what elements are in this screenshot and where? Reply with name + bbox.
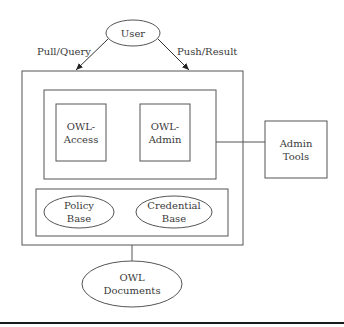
owl-documents-ellipse: [82, 261, 182, 307]
owl-access-label-line1: OWL-: [67, 121, 96, 132]
owl-access-module: OWL- Access: [56, 104, 106, 161]
policy-base-label-line2: Base: [67, 213, 91, 224]
owl-admin-module: OWL- Admin: [140, 104, 190, 161]
push-result-label: Push/Result: [177, 46, 237, 57]
user-label: User: [121, 28, 145, 39]
figure-bottom-rule: [0, 322, 344, 324]
admin-tools-node: Admin Tools: [265, 121, 327, 178]
admin-tools-label-line2: Tools: [283, 151, 309, 162]
credential-base-label-line1: Credential: [147, 200, 201, 211]
credential-base-label-line2: Base: [162, 213, 186, 224]
policy-base-label-line1: Policy: [64, 200, 94, 211]
pull-query-label: Pull/Query: [37, 46, 91, 57]
owl-admin-box: [140, 104, 190, 161]
owl-admin-label-line2: Admin: [148, 134, 182, 145]
owl-admin-label-line1: OWL-: [151, 121, 180, 132]
owl-documents-label-line1: OWL: [119, 272, 144, 283]
admin-tools-label-line1: Admin: [279, 138, 313, 149]
user-node: User: [106, 20, 160, 46]
credential-base-node: Credential Base: [136, 196, 212, 228]
owl-access-box: [56, 104, 106, 161]
owl-access-label-line2: Access: [63, 134, 99, 145]
owl-documents-node: OWL Documents: [82, 261, 182, 307]
owl-documents-label-line2: Documents: [103, 285, 160, 296]
architecture-diagram: User Pull/Query Push/Result OWL- Access …: [0, 0, 344, 327]
policy-base-node: Policy Base: [44, 196, 114, 228]
admin-tools-box: [265, 121, 327, 178]
